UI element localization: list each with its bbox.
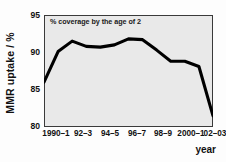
x-tick-label-1: 92–3 [74,129,92,139]
x-tick-label-0: 1990–1 [42,129,69,139]
x-tick-label-4: 98–9 [154,129,172,139]
plot-area: % coverage by the age of 2 [44,15,213,127]
x-tick-label-6: 02–03 [204,129,226,139]
x-tick-label-2: 94–5 [101,129,119,139]
y-tick-label-95: 95 [18,11,40,20]
y-tick-label-85: 85 [18,85,40,94]
x-axis-tick-labels: 1990–1 92–3 94–5 96–7 98–9 2000–1 02–03 [0,129,226,143]
data-line-svg [44,15,213,127]
mmr-uptake-line [44,39,213,116]
y-tick-label-90: 90 [18,48,40,57]
x-tick-label-3: 96–7 [128,129,146,139]
mmr-uptake-chart-figure: MMR uptake / % 95 90 85 80 % coverage by… [0,0,226,162]
x-axis-title: year [195,144,216,155]
x-tick-label-5: 2000–1 [177,129,204,139]
